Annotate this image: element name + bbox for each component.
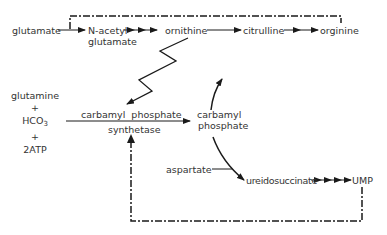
label-plus: +	[10, 102, 60, 113]
label-ureidosuccinate: ureidosuccinate	[246, 175, 317, 186]
label-plus: +	[10, 131, 60, 142]
label-orginine: orginine	[320, 25, 359, 36]
pathway-diagram: glutamate N-acetyl glutamate ornithine c…	[0, 0, 387, 235]
label-enzyme-line2: synthetase	[108, 124, 161, 135]
hco3-base: HCO	[22, 115, 43, 126]
arrow-carbamylphosphate-to-citrulline	[211, 79, 222, 110]
label-ornithine: ornithine	[165, 25, 207, 36]
label-glutamine: glutamine	[10, 90, 60, 101]
feedback-line-bottom	[127, 134, 362, 221]
label-phosphate: phosphate	[198, 120, 248, 131]
label-n-acetyl: N-acetyl	[88, 25, 127, 36]
arrow-carbamylphosphate-to-ureidosuccinate	[213, 137, 244, 180]
label-enzyme-line1: carbamyl phosphate	[81, 109, 182, 120]
label-glutamate: glutamate	[12, 25, 61, 36]
label-carbamyl: carbamyl	[197, 109, 241, 120]
label-citrulline: citrulline	[243, 25, 284, 36]
label-n-acetyl-glutamate: glutamate	[88, 36, 137, 47]
label-2atp: 2ATP	[10, 144, 60, 155]
label-aspartate: aspartate	[166, 164, 212, 175]
label-ump: UMP	[352, 175, 373, 186]
activation-zigzag-arrow	[127, 38, 188, 104]
hco3-subscript: 3	[43, 120, 47, 128]
label-hco3: HCO3	[10, 115, 60, 130]
inputs-stack: glutamine + HCO3 + 2ATP	[10, 90, 60, 155]
